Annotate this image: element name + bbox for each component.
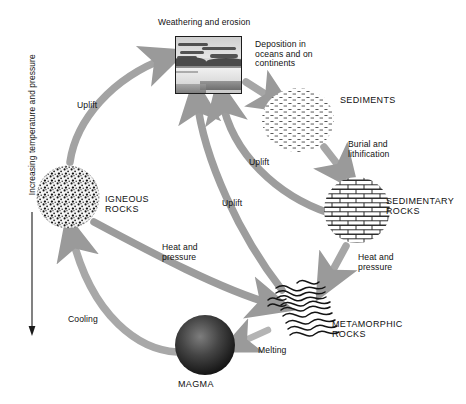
process-label-deposition: Deposition in oceans and on continents <box>255 40 313 69</box>
process-label-cooling: Cooling <box>68 315 98 325</box>
process-label-heat-pressure-igneous: Heat and pressure <box>162 243 198 262</box>
axis-arrow <box>29 212 36 336</box>
process-label-burial: Burial and lithification <box>348 140 389 159</box>
node-label-sediments: SEDIMENTS <box>340 95 396 105</box>
axis-caption: Increasing temperature and pressure <box>28 50 37 200</box>
process-label-melting: Melting <box>258 346 286 356</box>
process-label-heat-pressure-sedimentary: Heat and pressure <box>358 253 394 272</box>
arrow-deposition <box>246 82 276 101</box>
process-label-uplift-igneous: Uplift <box>77 101 97 111</box>
node-label-metamorphic: METAMORPHIC ROCKS <box>332 319 403 339</box>
arrow-melting <box>237 330 268 344</box>
node-label-igneous: IGNEOUS ROCKS <box>105 194 149 214</box>
arrow-burial <box>324 147 345 174</box>
brick-pattern-icon <box>322 175 392 245</box>
process-label-uplift-metamorphic: Uplift <box>222 199 242 209</box>
arrow-heat-pressure-sedimentary <box>327 246 346 281</box>
node-label-magma: MAGMA <box>178 379 214 389</box>
rock-cycle-diagram: Increasing temperature and pressure Weat… <box>0 0 466 404</box>
process-label-uplift-sedimentary: Uplift <box>249 158 269 168</box>
landscape-photo-icon <box>175 36 242 94</box>
molten-sphere-icon <box>175 315 235 375</box>
speckled-crystal-icon <box>36 165 100 229</box>
node-label-sedimentary: SEDIMENTARY ROCKS <box>386 196 454 216</box>
node-label-weathering: Weathering and erosion <box>158 18 250 28</box>
